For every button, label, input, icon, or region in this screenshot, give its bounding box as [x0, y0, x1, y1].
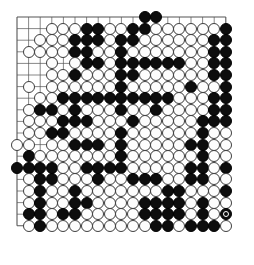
go-board[interactable]: [0, 0, 254, 265]
last-move-marker-icon: [223, 211, 229, 217]
marker-layer: [0, 0, 254, 265]
go-board-screenshot: Go Board Position 19x19: [0, 0, 254, 265]
